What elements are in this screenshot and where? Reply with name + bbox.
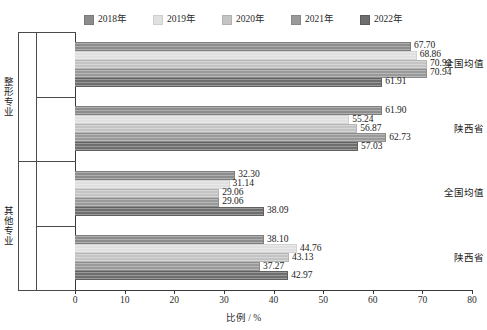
plot-area: 67.7068.8670.9470.9461.9161.9055.2456.87… xyxy=(75,32,472,290)
x-axis-tick xyxy=(323,290,324,294)
x-axis-tick-label: 20 xyxy=(170,295,180,305)
y-axis-outer-label: 整形专业 xyxy=(1,32,13,161)
chart-legend: 2018年2019年2020年2021年2022年 xyxy=(0,11,487,29)
legend-swatch-icon xyxy=(360,15,370,25)
x-axis-tick xyxy=(75,290,76,294)
bar xyxy=(75,207,264,216)
bar xyxy=(75,198,219,207)
bar-value-label: 57.03 xyxy=(358,142,382,151)
x-axis-tick-label: 70 xyxy=(418,295,428,305)
y-axis-group-bracket xyxy=(18,161,19,290)
bar-value-label: 42.97 xyxy=(288,271,312,280)
bar-value-label: 56.87 xyxy=(357,124,381,133)
y-axis-separator xyxy=(36,226,76,227)
legend-swatch-icon xyxy=(153,15,163,25)
bar xyxy=(75,78,382,87)
y-axis-separator xyxy=(18,290,76,291)
bar xyxy=(75,271,288,280)
bar xyxy=(75,171,235,180)
bar-value-label: 38.10 xyxy=(264,235,288,244)
legend-swatch-icon xyxy=(84,15,94,25)
legend-item[interactable]: 2022年 xyxy=(360,15,403,25)
legend-item[interactable]: 2018年 xyxy=(84,15,127,25)
bar-value-label: 61.91 xyxy=(382,77,406,86)
bar xyxy=(75,133,386,142)
x-axis-title: 比例 / % xyxy=(0,310,487,324)
legend-item[interactable]: 2020年 xyxy=(222,15,265,25)
bar xyxy=(75,42,411,51)
legend-label: 2021年 xyxy=(305,15,334,25)
bar xyxy=(75,69,427,78)
x-axis-tick xyxy=(174,290,175,294)
x-axis-tick xyxy=(224,290,225,294)
x-axis-tick xyxy=(422,290,423,294)
y-axis-group-bracket xyxy=(18,32,19,161)
legend-label: 2019年 xyxy=(167,15,196,25)
bar xyxy=(75,244,297,253)
bar xyxy=(75,235,264,244)
x-axis-tick xyxy=(472,290,473,294)
x-axis-tick xyxy=(125,290,126,294)
bar xyxy=(75,180,230,189)
bar xyxy=(75,106,382,115)
bar xyxy=(75,115,349,124)
bar-value-label: 43.13 xyxy=(289,253,313,262)
bar-value-label: 62.73 xyxy=(386,133,410,142)
bar xyxy=(75,124,357,133)
bar-chart: 2018年2019年2020年2021年2022年 全国均值陕西省全国均值陕西省… xyxy=(0,0,487,330)
bar xyxy=(75,51,417,60)
bar xyxy=(75,60,427,69)
bar-value-label: 61.90 xyxy=(382,106,406,115)
legend-swatch-icon xyxy=(291,15,301,25)
x-axis-tick xyxy=(274,290,275,294)
legend-item[interactable]: 2019年 xyxy=(153,15,196,25)
y-axis-separator xyxy=(18,32,76,33)
y-axis-outer-label: 其他专业 xyxy=(1,161,13,290)
bar xyxy=(75,253,289,262)
legend-swatch-icon xyxy=(222,15,232,25)
x-axis-tick-label: 80 xyxy=(467,295,477,305)
x-axis-tick-label: 10 xyxy=(120,295,130,305)
x-axis-tick-label: 0 xyxy=(73,295,78,305)
y-axis-separator xyxy=(36,97,76,98)
bar xyxy=(75,189,219,198)
legend-label: 2022年 xyxy=(374,15,403,25)
bar xyxy=(75,262,260,271)
x-axis-tick-label: 60 xyxy=(368,295,378,305)
x-axis-tick-label: 40 xyxy=(269,295,279,305)
legend-label: 2020年 xyxy=(236,15,265,25)
bar xyxy=(75,142,358,151)
x-axis-tick xyxy=(373,290,374,294)
bar-value-label: 29.06 xyxy=(219,197,243,206)
legend-item[interactable]: 2021年 xyxy=(291,15,334,25)
bar-value-label: 70.94 xyxy=(427,68,451,77)
x-axis-tick-label: 30 xyxy=(219,295,229,305)
bar-value-label: 38.09 xyxy=(264,206,288,215)
x-axis-tick-label: 50 xyxy=(318,295,328,305)
legend-label: 2018年 xyxy=(98,15,127,25)
y-axis-inner-bracket xyxy=(36,32,37,290)
y-axis-separator xyxy=(18,161,76,162)
bar-value-label: 37.27 xyxy=(260,262,284,271)
